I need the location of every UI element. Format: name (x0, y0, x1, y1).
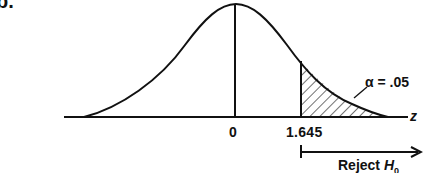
reject-region-label: Reject H0 (338, 157, 399, 173)
mean-label: 0 (229, 124, 237, 140)
hypothesis-symbol: H (384, 157, 394, 173)
normal-curve-diagram (0, 0, 423, 173)
critical-value-label: 1.645 (286, 124, 323, 140)
part-label: b. (0, 0, 14, 13)
reject-word: Reject (338, 157, 380, 173)
alpha-label: α = .05 (365, 74, 409, 90)
z-axis-label: z (410, 108, 417, 124)
hypothesis-subscript: 0 (394, 166, 399, 173)
